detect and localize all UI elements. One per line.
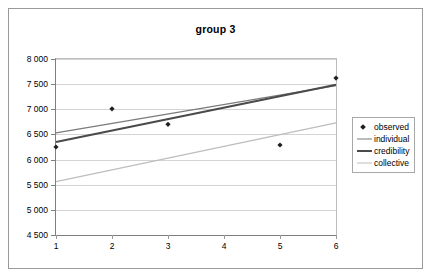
- y-axis-tick-label: 8 000: [2, 54, 48, 64]
- diamond-marker-icon: [356, 121, 373, 133]
- x-axis-tick-mark: [280, 235, 281, 239]
- chart-legend: observedindividualcredibilitycollective: [352, 117, 415, 173]
- legend-item-credibility[interactable]: credibility: [356, 145, 412, 157]
- y-axis-tick-label: 5 000: [2, 205, 48, 215]
- y-axis-tick-label: 6 000: [2, 155, 48, 165]
- legend-item-observed[interactable]: observed: [356, 121, 412, 133]
- data-point-observed: [109, 106, 114, 111]
- chart-container: group 3 4 5005 0005 5006 0006 5007 0007 …: [0, 0, 431, 277]
- legend-item-individual[interactable]: individual: [356, 133, 412, 145]
- line-swatch-icon: [356, 133, 373, 145]
- series-line-credibility: [56, 85, 336, 142]
- legend-item-collective[interactable]: collective: [356, 157, 412, 169]
- series-layer: [56, 59, 336, 235]
- legend-item-label: credibility: [373, 146, 409, 156]
- x-axis-tick-mark: [112, 235, 113, 239]
- line-swatch-icon: [356, 145, 373, 157]
- line-glyph: [357, 139, 372, 140]
- legend-item-label: collective: [373, 158, 409, 168]
- series-line-collective: [56, 123, 336, 182]
- y-axis-tick-label: 4 500: [2, 230, 48, 240]
- x-axis-tick-label: 2: [110, 241, 115, 251]
- diamond-glyph: [360, 124, 366, 130]
- line-swatch-icon: [356, 157, 373, 169]
- x-axis-tick-mark: [224, 235, 225, 239]
- y-axis-tick-label: 7 500: [2, 79, 48, 89]
- data-point-observed: [53, 144, 58, 149]
- y-axis-tick-label: 5 500: [2, 180, 48, 190]
- x-axis-tick-label: 6: [334, 241, 339, 251]
- data-point-observed: [165, 122, 170, 127]
- data-point-observed: [277, 142, 282, 147]
- legend-item-label: observed: [373, 122, 409, 132]
- x-axis-tick-mark: [336, 235, 337, 239]
- y-axis-tick-label: 6 500: [2, 129, 48, 139]
- x-axis-tick-label: 4: [222, 241, 227, 251]
- x-axis-tick-label: 5: [278, 241, 283, 251]
- legend-item-label: individual: [373, 134, 409, 144]
- x-axis-tick-label: 3: [166, 241, 171, 251]
- x-axis-tick-mark: [56, 235, 57, 239]
- plot-area: [55, 58, 337, 236]
- y-axis-tick-label: 7 000: [2, 104, 48, 114]
- chart-title: group 3: [0, 23, 431, 35]
- x-axis-tick-mark: [168, 235, 169, 239]
- x-axis-tick-label: 1: [54, 241, 59, 251]
- line-glyph: [357, 150, 372, 152]
- line-glyph: [357, 163, 372, 164]
